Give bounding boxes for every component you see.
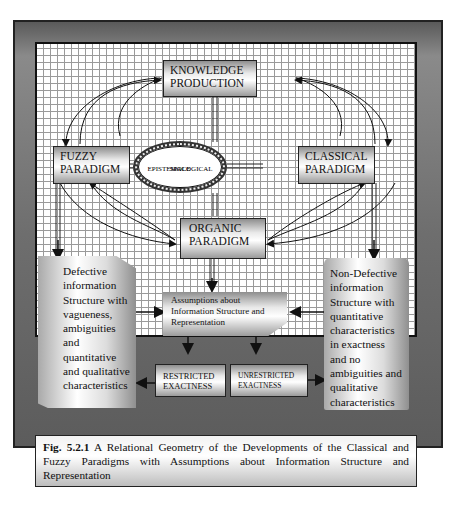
non-defective-info-box: Non-Defective information Structure with… [324, 258, 409, 410]
classical-line2: PARADIGM [299, 163, 374, 179]
fuzzy-paradigm-box: FUZZY PARADIGM [53, 146, 130, 184]
figure-caption: Fig. 5.2.1 A Relational Geometry of the … [35, 435, 417, 487]
classical-line1: CLASSICAL [299, 147, 374, 163]
restricted-exactness-box: RESTRICTED EXACTNESS [155, 364, 226, 397]
unrestricted-line1: UNRESTRICTED [231, 365, 307, 381]
figure-label: Fig. 5.2.1 [43, 441, 89, 453]
restricted-line1: RESTRICTED [156, 365, 225, 381]
epistemic-line2: SPACE [138, 164, 222, 174]
unrestricted-exactness-box: UNRESTRICTED EXACTNESS [230, 364, 308, 397]
defective-info-box: Defective information Structure with vag… [38, 256, 136, 408]
organic-paradigm-box: ORGANIC PARADIGM [180, 218, 266, 259]
assumptions-text: Assumptions about Information Structure … [163, 292, 287, 331]
organic-line1: ORGANIC [181, 219, 265, 235]
figure-caption-text: A Relational Geometry of the Development… [43, 441, 409, 481]
fuzzy-line2: PARADIGM [54, 163, 129, 179]
restricted-line2: EXACTNESS [156, 381, 225, 391]
defective-text: Defective information Structure with vag… [63, 265, 130, 391]
knowledge-production-box: KNOWLEDGE PRODUCTION [163, 60, 257, 97]
knowledge-line1: KNOWLEDGE [164, 61, 256, 77]
organic-line2: PARADIGM [181, 235, 265, 251]
classical-paradigm-box: CLASSICAL PARADIGM [298, 146, 375, 184]
non-defective-text: Non-Defective information Structure with… [330, 267, 402, 408]
assumptions-box: Assumptions about Information Structure … [163, 292, 287, 336]
fuzzy-line1: FUZZY [54, 147, 129, 163]
unrestricted-line2: EXACTNESS [231, 381, 307, 391]
epistemological-space-ellipse: EPISTEMOLOGICAL SPACE [133, 141, 227, 193]
knowledge-line2: PRODUCTION [164, 77, 256, 93]
